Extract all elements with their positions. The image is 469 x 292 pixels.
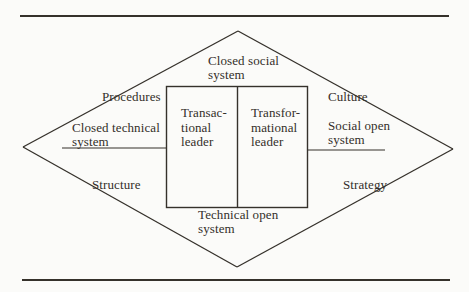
figure-page: Closed social system Procedures Culture …	[0, 0, 469, 292]
label-technical-open-system: Technical open system	[198, 208, 278, 236]
label-closed-technical-system: Closed technical system	[72, 121, 160, 149]
label-structure: Structure	[92, 178, 141, 192]
transactional-leader-cell: Transac- tional leader	[181, 106, 227, 150]
label-strategy: Strategy	[343, 178, 387, 192]
label-culture: Culture	[328, 90, 368, 104]
label-closed-social-system: Closed social system	[208, 54, 279, 82]
label-procedures: Procedures	[102, 90, 161, 104]
label-social-open-system: Social open system	[328, 119, 390, 147]
transformational-leader-cell: Transfor- mational leader	[251, 106, 300, 150]
diagram-artwork	[0, 0, 469, 292]
